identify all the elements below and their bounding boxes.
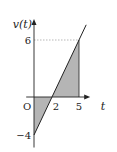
chart-svg: v(t) t O 2 5 6 −4 bbox=[0, 0, 117, 152]
x-tick-label-2: 2 bbox=[53, 101, 59, 112]
x-tick-label-5: 5 bbox=[76, 101, 82, 112]
y-axis-arrow-icon bbox=[32, 19, 37, 25]
origin-label: O bbox=[23, 101, 31, 112]
y-tick-label-neg4: −4 bbox=[16, 130, 31, 141]
y-axis-label: v(t) bbox=[13, 18, 32, 31]
y-tick-label-6: 6 bbox=[25, 35, 31, 46]
velocity-graph: v(t) t O 2 5 6 −4 bbox=[0, 0, 117, 152]
x-axis-arrow-icon bbox=[84, 95, 90, 100]
x-axis-label: t bbox=[101, 100, 106, 113]
